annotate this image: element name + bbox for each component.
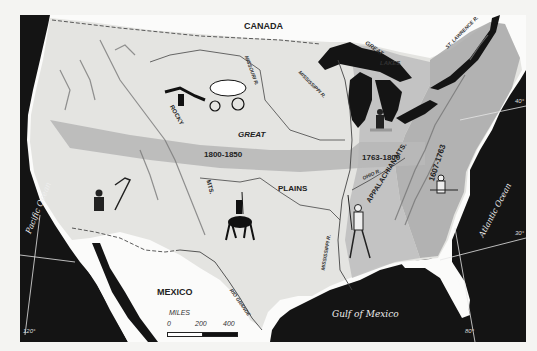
scale-bar: MILES 0 200 400 [167, 309, 242, 339]
band-label-1763-1800: 1763-1800 [362, 154, 400, 162]
scale-tick-200: 200 [195, 320, 207, 327]
scale-segment-white [167, 332, 203, 337]
band-label-1800-1850: 1800-1850 [204, 151, 242, 159]
label-great: GREAT [238, 131, 265, 139]
label-lat-30: 30° [515, 230, 524, 236]
scale-tick-0: 0 [167, 320, 171, 327]
label-lon-120: 120° [23, 328, 35, 334]
label-lon-80: 80° [465, 328, 474, 334]
label-great-lakes-2: LAKES [380, 60, 400, 66]
scale-tick-400: 400 [223, 320, 235, 327]
scale-unit: MILES [169, 309, 190, 316]
label-plains: PLAINS [278, 185, 307, 193]
label-gulf-of-mexico: Gulf of Mexico [332, 310, 399, 319]
scale-segment-black [202, 332, 238, 337]
label-canada: CANADA [244, 22, 283, 31]
label-mexico: MEXICO [157, 288, 193, 297]
label-lat-40: 40° [515, 98, 524, 104]
settlement-map [0, 0, 537, 351]
